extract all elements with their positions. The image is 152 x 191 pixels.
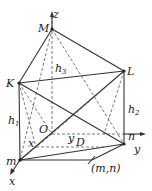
x-axis-label: x [9,175,16,188]
label-D: D [75,136,85,149]
label-m: m [6,155,16,168]
y-arrow-icon [140,132,146,136]
label-L: L [126,65,134,78]
label-n: n [128,130,135,143]
edge-KL [19,71,124,83]
y-axis-label: y [133,143,141,156]
label-mn: (m,n) [91,162,121,175]
geometry-diagram: z M K L n m (m,n) O D y x y x h1 h2 h3 [0,0,152,191]
label-K: K [5,77,15,90]
edge-ML [52,29,124,71]
y-inner-label: y [67,132,75,145]
label-h2: h2 [128,103,140,117]
x-inner-label: x [28,137,35,150]
z-axis-label: z [52,8,59,21]
label-M: M [37,22,50,35]
label-h3: h3 [55,62,67,76]
label-h1: h1 [8,114,20,128]
edge-MK [19,29,52,83]
label-O: O [39,123,48,136]
